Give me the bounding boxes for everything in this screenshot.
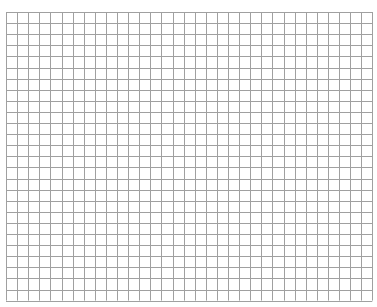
graph-paper-grid: [6, 12, 373, 302]
